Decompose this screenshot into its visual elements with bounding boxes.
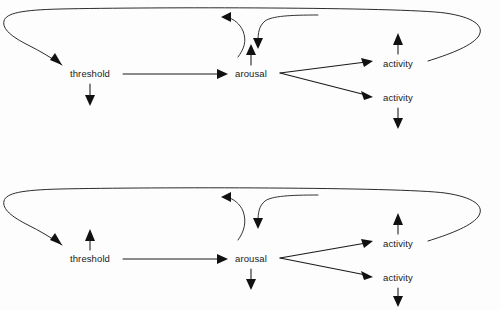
arrowhead-threshold-to-arousal-lower: [217, 254, 228, 264]
node-label-activity-upper-2: activity: [383, 92, 413, 103]
modifier-arrow-threshold-up-lower: [85, 229, 95, 241]
modifier-arrow-arousal-down-lower: [246, 279, 256, 290]
arrowhead-arousal-rebound-lower: [221, 192, 231, 202]
node-label-arousal-upper: arousal: [235, 68, 267, 79]
edge-inhibition-into-arousal-upper: [258, 15, 318, 41]
edge-arousal-to-activity-lower-2: [280, 258, 366, 275]
upper-panel: threshold arousal activity activity: [4, 8, 481, 129]
modifier-arrow-activity-down-lower-2: [393, 296, 403, 307]
arrowhead-arousal-to-activity-upper-1: [361, 58, 373, 67]
modifier-arrow-arousal-up-upper: [246, 44, 256, 55]
modifier-arrow-activity-down-upper-2: [393, 118, 403, 129]
node-label-arousal-lower: arousal: [235, 253, 267, 264]
arrowhead-inhibition-lower: [253, 218, 263, 229]
arrowhead-arousal-rebound-upper: [221, 12, 231, 22]
node-label-threshold-lower: threshold: [70, 253, 110, 264]
edge-arousal-to-activity-upper-2: [280, 73, 366, 95]
diagram-svg: threshold arousal activity activity: [0, 0, 500, 310]
arrowhead-arousal-to-activity-lower-1: [361, 239, 373, 248]
node-label-activity-lower-2: activity: [383, 272, 413, 283]
arrowhead-arousal-to-activity-lower-2: [361, 271, 373, 280]
node-label-activity-lower-1: activity: [383, 238, 413, 249]
arrowhead-feedback-loop-lower: [50, 233, 62, 245]
node-label-activity-upper-1: activity: [383, 58, 413, 69]
edge-arousal-to-activity-lower-1: [280, 243, 366, 258]
edge-inhibition-into-arousal-lower: [258, 195, 318, 221]
modifier-arrow-activity-up-upper-1: [393, 33, 403, 45]
edge-arousal-to-activity-upper-1: [280, 62, 366, 73]
arrowhead-inhibition-upper: [253, 38, 263, 49]
arrowhead-arousal-to-activity-upper-2: [361, 91, 373, 100]
arrowhead-feedback-loop-upper: [50, 53, 62, 65]
edge-feedback-loop-upper: [4, 8, 481, 65]
edge-arousal-rebound-upper: [227, 17, 245, 57]
diagram-canvas: threshold arousal activity activity: [0, 0, 500, 310]
edge-feedback-loop-lower: [4, 188, 481, 245]
edge-arousal-rebound-lower: [227, 197, 245, 240]
node-label-threshold-upper: threshold: [70, 68, 110, 79]
arrowhead-threshold-to-arousal-upper: [217, 69, 228, 79]
modifier-arrow-threshold-down-upper: [85, 95, 95, 106]
modifier-arrow-activity-up-lower-1: [393, 213, 403, 225]
lower-panel: threshold arousal activity activity: [4, 188, 481, 307]
